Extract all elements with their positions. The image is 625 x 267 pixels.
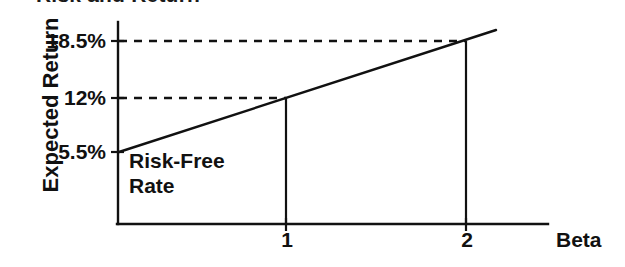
chart-figure: Risk and Return Expected Return 18.5% 12…	[0, 0, 625, 267]
plot-area	[0, 0, 625, 267]
security-market-line	[119, 30, 496, 152]
